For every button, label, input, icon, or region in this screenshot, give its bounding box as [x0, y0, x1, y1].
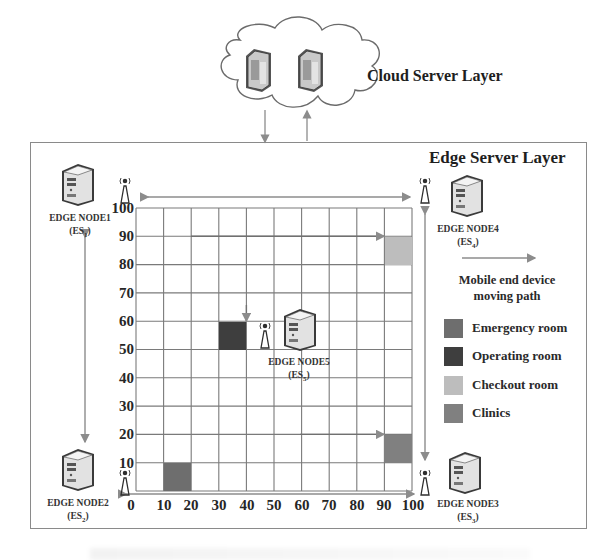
edge-server-icon	[449, 174, 485, 218]
edge-node-2-label: EDGE NODE2 (ES2)	[38, 497, 118, 527]
edge-server-icon	[447, 451, 483, 495]
edge-server-icon	[282, 308, 318, 352]
legend-swatch-operating	[444, 347, 463, 366]
antenna-icon	[420, 470, 430, 495]
edge-node-4-label: EDGE NODE4 (ES4)	[428, 223, 508, 253]
legend-label: Checkout room	[472, 377, 558, 393]
edge-server-icon	[60, 448, 96, 492]
antenna-icon	[120, 470, 130, 495]
legend-path-label: Mobile end device moving path	[447, 272, 567, 304]
antenna-icon	[260, 323, 270, 348]
legend-label: Emergency room	[472, 320, 567, 336]
caption-remnant	[90, 548, 530, 560]
edge-node-5-label: EDGE NODE5 (ES5)	[259, 356, 339, 386]
legend-label: Clinics	[472, 405, 510, 421]
antenna-icon	[120, 178, 130, 203]
legend-label: Operating room	[472, 348, 562, 364]
edge-node-3-label: EDGE NODE3 (ES3)	[428, 498, 508, 528]
antenna-icon	[420, 178, 430, 203]
legend-swatch-emergency	[444, 319, 463, 338]
legend-swatch-checkout	[444, 376, 463, 395]
legend-swatch-clinics	[444, 404, 463, 423]
edge-server-icon	[60, 163, 96, 207]
edge-node-1-label: EDGE NODE1 (ES1)	[40, 212, 120, 242]
